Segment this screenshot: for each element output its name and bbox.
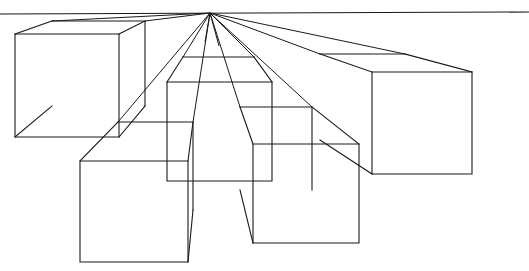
horizon-line [0, 12, 529, 14]
lower-right-box-connector-2 [312, 107, 359, 144]
ray-to-right-back-right [210, 13, 405, 54]
right-box-connector-1 [320, 54, 372, 72]
right-box-front-face [372, 72, 472, 174]
drawing-canvas [0, 0, 529, 271]
ray-to-right-back-left [210, 13, 320, 54]
right-box-connector-2 [405, 54, 472, 72]
center-box-connector-2 [254, 57, 272, 82]
lower-left-box-front-face [80, 161, 188, 262]
top-left-box-connector-2 [119, 21, 145, 34]
top-left-box-front-face [15, 34, 119, 137]
perspective-drawing [0, 0, 529, 271]
lower-left-box-connector-3 [188, 210, 193, 262]
lower-right-box-connector-3 [240, 190, 253, 243]
boxes-group [15, 21, 472, 262]
top-left-box [15, 21, 145, 137]
top-left-box-connector-1 [15, 21, 52, 34]
lower-right-box-front-face [253, 144, 359, 243]
